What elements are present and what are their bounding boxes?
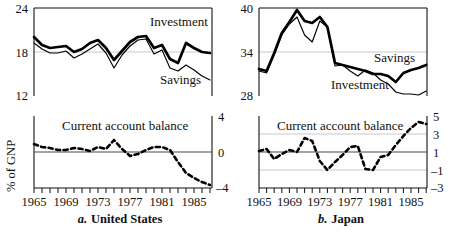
annotation-current-account-balance: Current account balance	[62, 118, 189, 133]
ytick-label-1: 1	[433, 146, 439, 160]
series-label-savings: Savings	[374, 50, 415, 65]
ytick-label-24: 24	[16, 2, 29, 16]
panel-caption-us: a.United States	[78, 212, 163, 226]
panel-japan-saving-investment: 40 34 28 Savings Investment	[229, 0, 459, 110]
x-axis-ticks	[259, 188, 426, 193]
xtick-label-1969: 1969	[54, 195, 79, 209]
xtick-label-1985: 1985	[182, 195, 207, 209]
ytick-label-3: 3	[433, 128, 439, 142]
ytick-label-34: 34	[241, 46, 254, 60]
panel-caption-japan: b.Japan	[318, 212, 364, 226]
xtick-label-1973: 1973	[307, 195, 332, 209]
ytick-label-18: 18	[16, 46, 29, 60]
xtick-label-1977: 1977	[338, 195, 363, 209]
ytick-label-minus3: –3	[430, 181, 444, 195]
xtick-label-1965: 1965	[22, 195, 47, 209]
x-axis-ticks	[34, 188, 210, 193]
xtick-label-1981: 1981	[368, 195, 393, 209]
annotation-current-account-balance: Current account balance	[277, 118, 404, 133]
panel-caption-text-us: United States	[91, 212, 162, 226]
series-label-savings: Savings	[160, 72, 201, 87]
xtick-label-1965: 1965	[247, 195, 272, 209]
ytick-label-12: 12	[16, 89, 29, 103]
xtick-label-1981: 1981	[150, 195, 175, 209]
panel-caption-text-japan: Japan	[331, 212, 364, 226]
ytick-label-minus1: –1	[430, 164, 444, 178]
series-line-investment	[34, 36, 210, 63]
ytick-label-40: 40	[241, 2, 254, 16]
series-line-savings	[259, 10, 426, 82]
ytick-label-4: 4	[218, 110, 225, 124]
xtick-label-1969: 1969	[277, 195, 302, 209]
panel-japan-current-account: 5 3 1 –1 –3 Current account balance	[229, 110, 459, 238]
series-line-current-account	[34, 140, 210, 185]
ytick-label-minus4: –4	[215, 181, 229, 195]
ytick-label-28: 28	[241, 89, 254, 103]
panel-caption-letter-japan: b.	[318, 212, 327, 226]
xtick-label-1985: 1985	[399, 195, 424, 209]
ytick-label-0: 0	[218, 146, 224, 160]
panel-caption-letter-us: a.	[78, 212, 87, 226]
figure-saving-investment-current-account: % of GNP 24 18 12 Investment Savings	[0, 0, 459, 238]
ytick-label-5: 5	[433, 110, 439, 124]
xtick-label-1973: 1973	[86, 195, 111, 209]
xtick-label-1977: 1977	[118, 195, 143, 209]
series-label-investment: Investment	[331, 77, 389, 92]
series-label-investment: Investment	[150, 14, 208, 29]
panel-us-current-account: 4 0 –4 Current account balance	[0, 110, 229, 238]
panel-us-saving-investment: 24 18 12 Investment Savings	[0, 0, 229, 110]
